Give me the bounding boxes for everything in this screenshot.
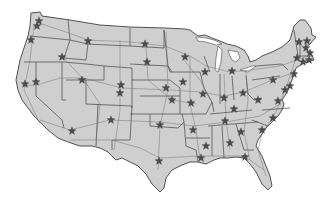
map-canvas: OlympiaSeattleSalemBoiseHelenaSacramento… [0,0,335,211]
us-map: OlympiaSeattleSalemBoiseHelenaSacramento… [0,0,335,211]
